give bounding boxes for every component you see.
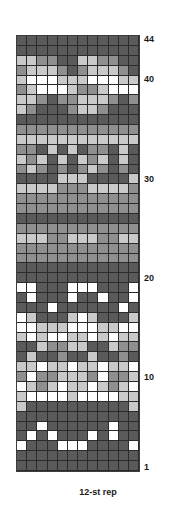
chart-cell	[109, 125, 119, 135]
chart-cell	[109, 303, 119, 313]
chart-cell	[78, 412, 88, 422]
chart-cell	[37, 95, 47, 105]
chart-cell	[88, 95, 98, 105]
chart-cell	[98, 461, 108, 471]
chart-cell	[88, 402, 98, 412]
chart-cell	[27, 333, 37, 343]
chart-cell	[109, 234, 119, 244]
chart-cell	[68, 155, 78, 165]
chart-cell	[109, 224, 119, 234]
chart-cell	[129, 145, 139, 155]
chart-cell	[37, 244, 47, 254]
chart-cell	[48, 382, 58, 392]
chart-cell	[48, 333, 58, 343]
chart-cell	[68, 431, 78, 441]
chart-cell	[98, 372, 108, 382]
chart-cell	[119, 451, 129, 461]
chart-cell	[119, 155, 129, 165]
chart-cell	[119, 461, 129, 471]
chart-cell	[98, 155, 108, 165]
chart-cell	[58, 431, 68, 441]
chart-cell	[129, 342, 139, 352]
chart-cell	[119, 323, 129, 333]
chart-cell	[109, 115, 119, 125]
chart-cell	[68, 214, 78, 224]
chart-cell	[58, 85, 68, 95]
chart-cell	[119, 135, 129, 145]
chart-cell	[119, 254, 129, 264]
chart-cell	[109, 422, 119, 432]
chart-cell	[68, 333, 78, 343]
chart-cell	[129, 76, 139, 86]
chart-cell	[109, 174, 119, 184]
chart-cell	[68, 352, 78, 362]
chart-cell	[129, 174, 139, 184]
chart-cell	[58, 145, 68, 155]
chart-cell	[119, 194, 129, 204]
chart-cell	[78, 194, 88, 204]
chart-cell	[98, 36, 108, 46]
chart-cell	[119, 293, 129, 303]
chart-cell	[37, 214, 47, 224]
chart-cell	[119, 115, 129, 125]
chart-cell	[48, 66, 58, 76]
chart-cell	[37, 85, 47, 95]
chart-cell	[58, 461, 68, 471]
chart-cell	[48, 362, 58, 372]
chart-cell	[37, 323, 47, 333]
chart-cell	[68, 323, 78, 333]
chart-cell	[27, 303, 37, 313]
chart-cell	[119, 46, 129, 56]
chart-cell	[78, 333, 88, 343]
chart-cell	[78, 461, 88, 471]
chart-cell	[17, 293, 27, 303]
chart-cell	[78, 392, 88, 402]
chart-cell	[109, 431, 119, 441]
chart-cell	[78, 115, 88, 125]
chart-cell	[129, 402, 139, 412]
chart-cell	[58, 194, 68, 204]
chart-cell	[109, 352, 119, 362]
chart-cell	[27, 145, 37, 155]
chart-cell	[98, 46, 108, 56]
chart-cell	[98, 66, 108, 76]
chart-cell	[98, 224, 108, 234]
chart-cell	[129, 323, 139, 333]
chart-cell	[68, 461, 78, 471]
row-number-label-40: 40	[144, 75, 154, 84]
chart-cell	[109, 451, 119, 461]
chart-cell	[129, 254, 139, 264]
chart-cell	[58, 214, 68, 224]
chart-cell	[109, 85, 119, 95]
chart-cell	[68, 441, 78, 451]
chart-cell	[88, 105, 98, 115]
chart-cell	[27, 66, 37, 76]
chart-cell	[27, 244, 37, 254]
chart-cell	[78, 382, 88, 392]
chart-cell	[88, 194, 98, 204]
chart-cell	[78, 342, 88, 352]
chart-cell	[98, 105, 108, 115]
chart-cell	[88, 155, 98, 165]
chart-cell	[98, 254, 108, 264]
chart-cell	[129, 461, 139, 471]
chart-cell	[68, 135, 78, 145]
chart-cell	[27, 85, 37, 95]
chart-cell	[48, 46, 58, 56]
chart-cell	[37, 46, 47, 56]
chart-cell	[129, 66, 139, 76]
chart-cell	[68, 145, 78, 155]
chart-cell	[58, 323, 68, 333]
chart-cell	[17, 184, 27, 194]
chart-cell	[37, 234, 47, 244]
chart-cell	[119, 263, 129, 273]
chart-cell	[27, 283, 37, 293]
chart-cell	[17, 283, 27, 293]
chart-cell	[27, 323, 37, 333]
chart-cell	[37, 165, 47, 175]
chart-cell	[119, 402, 129, 412]
chart-cell	[68, 254, 78, 264]
chart-cell	[68, 204, 78, 214]
chart-cell	[88, 234, 98, 244]
chart-cell	[68, 105, 78, 115]
